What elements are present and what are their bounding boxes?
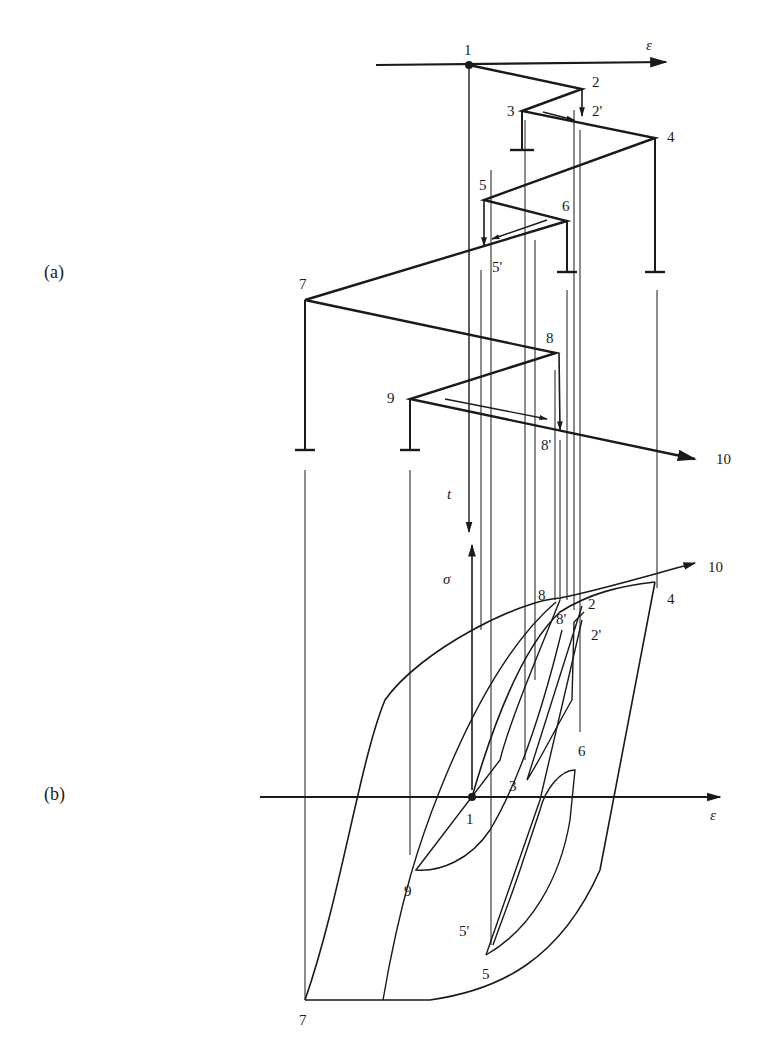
a-point-10: 10 (716, 452, 731, 467)
a-point-5p: 5' (492, 260, 502, 275)
b-point-9: 9 (404, 884, 412, 899)
a-point-3: 3 (507, 104, 515, 119)
b-point-6: 6 (578, 744, 586, 759)
b-point-2p: 2' (591, 628, 601, 643)
b-point-3: 3 (509, 779, 517, 794)
b-point-10: 10 (708, 560, 723, 575)
b-point-8p: 8' (556, 612, 566, 627)
b-point-5: 5 (482, 967, 490, 982)
a-point-8: 8 (546, 331, 554, 346)
panel-b-drawing (260, 545, 720, 1000)
epsilon-axis-b-label: ε (710, 808, 716, 823)
rainflow-hysteresis-figure: (a) (b) ε t σ ε 1 2 2' 3 4 5 5' 6 7 8 8'… (0, 0, 772, 1051)
loop-2-3 (527, 606, 584, 780)
a-point-5: 5 (479, 178, 487, 193)
b-point-2: 2 (588, 597, 596, 612)
epsilon-axis-a (376, 62, 666, 65)
a-point-8p: 8' (541, 438, 551, 453)
b-point-4: 4 (667, 592, 675, 607)
a-point-6: 6 (562, 199, 570, 214)
curve-5-2 (486, 620, 582, 955)
epsilon-axis-a-label: ε (646, 38, 652, 53)
curve-7-10 (305, 563, 695, 1000)
a-point-2: 2 (592, 75, 600, 90)
a-point-1: 1 (464, 43, 472, 58)
diagram-drawing (0, 0, 772, 1051)
time-axis-label: t (447, 487, 451, 502)
curve-4-7 (305, 582, 655, 1000)
loop-8-9 (416, 600, 562, 870)
a-point-9: 9 (387, 391, 395, 406)
a-point-2p: 2' (592, 104, 602, 119)
panel-a-drawing (295, 61, 695, 532)
a-point-7: 7 (299, 277, 307, 292)
b-point-7: 7 (299, 1013, 307, 1028)
projection-lines (305, 110, 657, 1000)
b-point-5p: 5' (459, 924, 469, 939)
b-point-1: 1 (466, 812, 474, 827)
a-point-4: 4 (667, 130, 675, 145)
panel-a-label: (a) (44, 263, 64, 281)
drop-8-8p (559, 353, 560, 430)
panel-b-label: (b) (44, 785, 65, 803)
sigma-axis-label: σ (443, 572, 450, 587)
b-point-8: 8 (538, 588, 546, 603)
